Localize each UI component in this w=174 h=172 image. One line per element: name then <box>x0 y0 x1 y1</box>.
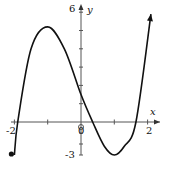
axes <box>11 4 160 155</box>
curve-end-arrow <box>147 14 153 21</box>
y-tick-label-6: 6 <box>69 3 75 14</box>
x-tick-label-neg2: -2 <box>6 125 16 136</box>
start-point-dot <box>9 151 14 156</box>
y-tick-label-neg3: -3 <box>65 149 75 160</box>
x-axis-label: x <box>150 106 156 117</box>
origin-label: 0 <box>78 125 84 136</box>
y-axis-label: y <box>86 4 93 15</box>
x-axis-arrow <box>154 120 160 125</box>
y-axis-arrow <box>79 4 84 10</box>
x-tick-label-2: 2 <box>146 125 152 136</box>
cubic-graph: 6 -3 -2 2 0 y x <box>0 0 174 172</box>
